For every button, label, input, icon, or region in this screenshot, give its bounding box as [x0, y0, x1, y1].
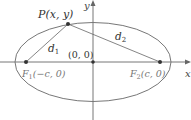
- d2-label: d2: [115, 30, 126, 44]
- point-p-label: P(x, y): [37, 8, 73, 21]
- focus-f1: [24, 60, 28, 64]
- x-axis-arrow-icon: [185, 60, 191, 65]
- d1-label: d1: [48, 42, 59, 56]
- point-p: [66, 22, 70, 26]
- y-axis-arrow-icon: [91, 0, 96, 6]
- ellipse-diagram: y x P(x, y) (0, 0) d1 d2 F1(−c, 0) F2(c,…: [0, 0, 191, 120]
- y-axis-label: y: [83, 0, 90, 11]
- origin-label: (0, 0): [68, 49, 94, 60]
- focus-f2: [158, 60, 162, 64]
- x-axis-label: x: [185, 68, 191, 79]
- origin-point: [91, 60, 95, 64]
- focus-f2-label: F2(c, 0): [129, 68, 166, 81]
- focus-f1-label: F1(−c, 0): [21, 68, 66, 81]
